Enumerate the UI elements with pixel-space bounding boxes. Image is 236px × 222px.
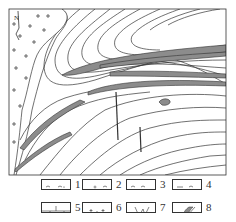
- pattern-wavy-circles-icon: [82, 179, 112, 190]
- pattern-ore-body-icon: [172, 202, 202, 213]
- legend-item-5: 5: [41, 201, 81, 213]
- legend-item-7: 7: [126, 201, 166, 213]
- legend-label: 4: [206, 179, 212, 190]
- pattern-wavy-dotted-icon: [41, 179, 71, 190]
- legend-item-3: 3: [126, 178, 166, 190]
- legend-label: 5: [75, 202, 81, 213]
- pattern-crosses-icon: [82, 202, 112, 213]
- legend-label: 2: [116, 179, 122, 190]
- pattern-vein-icon: [126, 202, 156, 213]
- legend-label: 1: [75, 179, 81, 190]
- legend: 1 2 3 4 5 6 7: [0, 0, 236, 222]
- legend-item-6: 6: [82, 201, 122, 213]
- pattern-wavy-icon: [126, 179, 156, 190]
- legend-label: 3: [160, 179, 166, 190]
- legend-item-8: 8: [172, 201, 212, 213]
- pattern-brick-icon: [41, 202, 71, 213]
- legend-item-1: 1: [41, 178, 81, 190]
- legend-item-4: 4: [172, 178, 212, 190]
- legend-label: 6: [116, 202, 122, 213]
- legend-label: 8: [206, 202, 212, 213]
- pattern-wavy-dashed-icon: [172, 179, 202, 190]
- legend-label: 7: [160, 202, 166, 213]
- legend-item-2: 2: [82, 178, 122, 190]
